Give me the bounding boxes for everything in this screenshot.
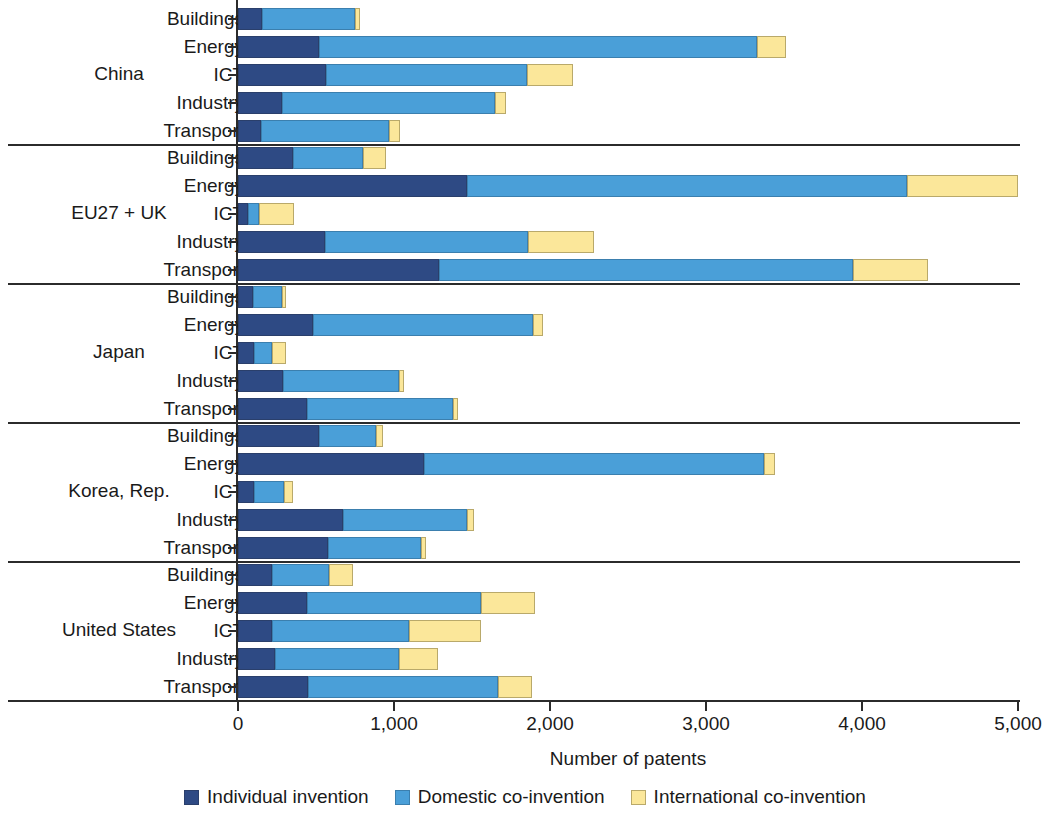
category-label: Transport bbox=[44, 398, 244, 420]
patents-stacked-bar-chart: BuildingsEnergyICTIndustryTransportBuild… bbox=[0, 0, 1050, 817]
x-tick-label: 4,000 bbox=[802, 713, 922, 735]
category-label: Buildings bbox=[44, 147, 244, 169]
stacked-bar bbox=[238, 592, 535, 614]
bar-segment-domestic-co-invention bbox=[261, 120, 389, 142]
bar-row: Energy bbox=[0, 33, 1050, 61]
bar-segment-international-co-invention bbox=[853, 259, 928, 281]
bar-segment-individual-invention bbox=[238, 286, 253, 308]
stacked-bar bbox=[238, 342, 286, 364]
category-label: Industry bbox=[44, 231, 244, 253]
bar-segment-individual-invention bbox=[238, 92, 282, 114]
bar-segment-individual-invention bbox=[238, 147, 293, 169]
category-label: Buildings bbox=[44, 425, 244, 447]
chart-legend: Individual inventionDomestic co-inventio… bbox=[0, 786, 1050, 808]
bar-segment-domestic-co-invention bbox=[325, 231, 528, 253]
bar-segment-international-co-invention bbox=[757, 36, 787, 58]
bar-segment-domestic-co-invention bbox=[272, 564, 329, 586]
group-label-united-states: United States bbox=[8, 620, 230, 639]
bar-segment-individual-invention bbox=[238, 648, 275, 670]
bar-segment-international-co-invention bbox=[498, 676, 532, 698]
stacked-bar bbox=[238, 203, 294, 225]
bar-segment-international-co-invention bbox=[421, 537, 426, 559]
category-label: Energy bbox=[44, 453, 244, 475]
bar-row: Transport bbox=[0, 117, 1050, 145]
stacked-bar bbox=[238, 398, 458, 420]
bar-segment-international-co-invention bbox=[533, 314, 543, 336]
bar-segment-individual-invention bbox=[238, 481, 254, 503]
bar-segment-international-co-invention bbox=[399, 370, 404, 392]
bar-segment-individual-invention bbox=[238, 398, 307, 420]
bar-segment-individual-invention bbox=[238, 203, 248, 225]
stacked-bar bbox=[238, 509, 474, 531]
bar-segment-international-co-invention bbox=[764, 453, 776, 475]
bar-segment-domestic-co-invention bbox=[467, 175, 907, 197]
category-tick bbox=[228, 241, 237, 243]
bar-segment-individual-invention bbox=[238, 453, 424, 475]
stacked-bar bbox=[238, 36, 786, 58]
bar-segment-international-co-invention bbox=[284, 481, 293, 503]
bar-segment-individual-invention bbox=[238, 231, 325, 253]
bar-row: Energy bbox=[0, 172, 1050, 200]
legend-label: Individual invention bbox=[207, 786, 369, 808]
bar-segment-domestic-co-invention bbox=[254, 481, 284, 503]
category-tick bbox=[228, 380, 237, 382]
bar-segment-individual-invention bbox=[238, 564, 272, 586]
bar-row: Buildings bbox=[0, 5, 1050, 33]
x-tick bbox=[549, 702, 551, 711]
bar-segment-individual-invention bbox=[238, 509, 343, 531]
stacked-bar bbox=[238, 314, 543, 336]
bar-row: Transport bbox=[0, 534, 1050, 562]
bar-row: Energy bbox=[0, 589, 1050, 617]
x-tick bbox=[705, 702, 707, 711]
plot-area: BuildingsEnergyICTIndustryTransportBuild… bbox=[0, 0, 1050, 700]
stacked-bar bbox=[238, 92, 506, 114]
x-tick-label: 2,000 bbox=[490, 713, 610, 735]
stacked-bar bbox=[238, 453, 775, 475]
category-label: Industry bbox=[44, 92, 244, 114]
stacked-bar bbox=[238, 64, 573, 86]
bar-segment-individual-invention bbox=[238, 120, 261, 142]
bar-segment-domestic-co-invention bbox=[439, 259, 852, 281]
x-tick bbox=[237, 702, 239, 711]
bar-segment-domestic-co-invention bbox=[282, 92, 496, 114]
group-separator bbox=[8, 283, 1020, 285]
bar-row: Energy bbox=[0, 311, 1050, 339]
category-label: Transport bbox=[44, 259, 244, 281]
category-tick bbox=[228, 18, 237, 20]
x-axis-title: Number of patents bbox=[236, 748, 1020, 770]
category-tick bbox=[228, 408, 237, 410]
bar-segment-domestic-co-invention bbox=[308, 676, 498, 698]
stacked-bar bbox=[238, 648, 438, 670]
bar-segment-domestic-co-invention bbox=[248, 203, 259, 225]
stacked-bar bbox=[238, 231, 594, 253]
legend-swatch-icon bbox=[395, 790, 410, 805]
legend-item[interactable]: International co-invention bbox=[631, 786, 866, 808]
bar-segment-domestic-co-invention bbox=[307, 592, 480, 614]
category-label: Energy bbox=[44, 36, 244, 58]
legend-swatch-icon bbox=[184, 790, 199, 805]
bar-segment-domestic-co-invention bbox=[262, 8, 355, 30]
bar-segment-individual-invention bbox=[238, 64, 326, 86]
bar-row: Industry bbox=[0, 506, 1050, 534]
category-label: Buildings bbox=[44, 8, 244, 30]
category-label: Industry bbox=[44, 509, 244, 531]
bar-row: Industry bbox=[0, 645, 1050, 673]
stacked-bar bbox=[238, 425, 383, 447]
category-tick bbox=[228, 686, 237, 688]
x-tick bbox=[1017, 702, 1019, 711]
bar-segment-domestic-co-invention bbox=[254, 342, 272, 364]
legend-item[interactable]: Individual invention bbox=[184, 786, 369, 808]
category-tick bbox=[228, 519, 237, 521]
bar-segment-individual-invention bbox=[238, 36, 319, 58]
category-label: Energy bbox=[44, 592, 244, 614]
category-label: Transport bbox=[44, 537, 244, 559]
bar-segment-domestic-co-invention bbox=[283, 370, 398, 392]
category-tick bbox=[228, 130, 237, 132]
bar-row: Buildings bbox=[0, 561, 1050, 589]
legend-item[interactable]: Domestic co-invention bbox=[395, 786, 605, 808]
bar-segment-individual-invention bbox=[238, 342, 254, 364]
bar-segment-international-co-invention bbox=[481, 592, 536, 614]
x-tick bbox=[861, 702, 863, 711]
category-tick bbox=[228, 296, 237, 298]
category-tick bbox=[228, 547, 237, 549]
